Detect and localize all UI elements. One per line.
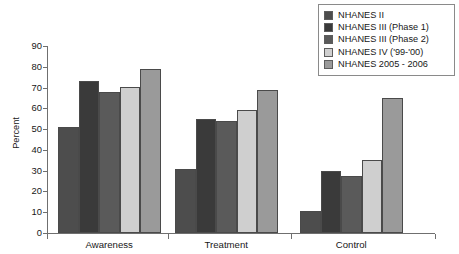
legend-label: NHANES 2005 - 2006 [338,60,428,69]
x-axis-category-label: Awareness [86,240,133,250]
legend-item: NHANES III (Phase 2) [324,34,449,46]
legend-label: NHANES IV ('99-'00) [338,48,423,57]
x-axis-tick [435,234,436,239]
bar [58,127,79,233]
bar [175,169,196,233]
bar [120,87,141,233]
bar [237,110,258,233]
x-axis-category-label: Treatment [205,240,248,250]
x-axis-line [47,233,435,234]
y-axis-tick-label: 90 [20,41,42,50]
bar [382,98,403,233]
bar [321,171,342,233]
y-axis-tick [43,67,47,68]
bar [300,211,321,233]
x-axis-category-label: Control [336,240,367,250]
y-axis-tick [43,171,47,172]
legend-swatch-nhanes-iii-phase-1 [324,23,333,32]
bar [196,119,217,233]
y-axis-tick-label: 50 [20,124,42,133]
y-axis-tick-label: 40 [20,145,42,154]
y-axis-tick [43,46,47,47]
y-axis-line [47,46,48,234]
y-axis-tick [43,108,47,109]
bar [79,81,100,233]
y-axis-tick-label: 80 [20,62,42,71]
y-axis-tick-label: 70 [20,83,42,92]
chart-legend: NHANES II NHANES III (Phase 1) NHANES II… [318,4,455,76]
legend-label: NHANES III (Phase 1) [338,23,429,32]
legend-item: NHANES IV ('99-'00) [324,46,449,58]
x-axis-tick [291,234,292,239]
y-axis-tick-label: 20 [20,186,42,195]
bar [362,160,383,233]
x-axis-tick [168,234,169,239]
bar [257,90,278,233]
x-axis-tick [47,234,48,239]
y-axis-tick-label: 10 [20,207,42,216]
bar [216,121,237,233]
y-axis-tick [43,129,47,130]
legend-item: NHANES III (Phase 1) [324,21,449,33]
y-axis-tick [43,150,47,151]
legend-label: NHANES II [338,11,384,20]
bar [341,176,362,233]
y-axis-tick-label: 0 [20,228,42,237]
legend-swatch-nhanes-2005-2006 [324,60,333,69]
legend-swatch-nhanes-ii [324,11,333,20]
bar-chart: NHANES II NHANES III (Phase 1) NHANES II… [0,0,459,254]
y-axis-tick [43,191,47,192]
y-axis-tick-label: 60 [20,103,42,112]
legend-swatch-nhanes-iii-phase-2 [324,35,333,44]
legend-label: NHANES III (Phase 2) [338,35,429,44]
y-axis-tick [43,88,47,89]
y-axis-tick [43,212,47,213]
y-axis-tick-label: 30 [20,166,42,175]
legend-item: NHANES II [324,9,449,21]
bar [99,92,120,233]
legend-swatch-nhanes-iv [324,48,333,57]
bar [140,69,161,233]
legend-item: NHANES 2005 - 2006 [324,59,449,71]
